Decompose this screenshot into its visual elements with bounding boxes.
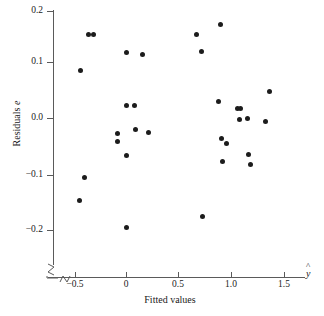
y-hat-letter: y (306, 268, 310, 279)
data-point (115, 131, 120, 136)
x-axis-line (48, 277, 305, 278)
data-point (245, 116, 250, 121)
data-point (219, 136, 224, 141)
y-tick-3 (47, 175, 53, 176)
data-point (78, 68, 83, 73)
x-tick-label-0: −0.5 (58, 279, 92, 289)
data-point (77, 198, 82, 203)
data-point (82, 175, 87, 180)
data-point (246, 152, 251, 157)
data-point (124, 225, 129, 230)
data-point (248, 162, 253, 167)
y-tick-4 (47, 230, 53, 231)
x-tick-label-3: 1.0 (214, 279, 248, 289)
y-tick-label-4: −0.2 (13, 224, 43, 234)
data-point (237, 117, 242, 122)
data-point (146, 130, 151, 135)
data-point (115, 139, 120, 144)
x-tick-3 (231, 272, 232, 277)
x-tick-label-1: 0 (109, 279, 143, 289)
y-tick-0 (47, 11, 53, 12)
data-point (124, 50, 129, 55)
x-tick-label-4: 1.5 (267, 279, 301, 289)
data-point (224, 141, 229, 146)
data-point (263, 119, 268, 124)
x-tick-4 (284, 272, 285, 277)
y-tick-label-1: 0.1 (13, 56, 43, 66)
residual-scatter-plot-figure: 0.2 0.1 0.0 −0.1 −0.2 −0.5 0 0.5 1.0 1.5… (0, 0, 324, 316)
data-point (200, 214, 205, 219)
data-point (124, 153, 129, 158)
data-point (216, 99, 221, 104)
y-tick-1 (47, 62, 53, 63)
y-axis-title-text: Residuals (11, 108, 22, 147)
y-axis-title-symbol: e (11, 101, 22, 105)
y-axis-line (53, 10, 54, 265)
data-point (194, 32, 199, 37)
data-point (218, 22, 223, 27)
x-tick-2 (178, 272, 179, 277)
data-point (140, 52, 145, 57)
x-axis-end-label-yhat: ^y (306, 264, 310, 279)
y-axis-title: Residuals e (11, 74, 22, 174)
plot-area: 0.2 0.1 0.0 −0.1 −0.2 −0.5 0 0.5 1.0 1.5 (0, 0, 324, 316)
y-tick-label-0: 0.2 (13, 5, 43, 15)
data-point (238, 106, 243, 111)
data-point (91, 32, 96, 37)
x-tick-label-2: 0.5 (161, 279, 195, 289)
data-point (199, 49, 204, 54)
x-tick-0 (75, 272, 76, 277)
data-point (267, 89, 272, 94)
x-axis-title: Fitted values (110, 294, 230, 305)
data-point (86, 32, 91, 37)
data-point (133, 127, 138, 132)
x-tick-1 (126, 272, 127, 277)
data-point (132, 103, 137, 108)
data-point (124, 103, 129, 108)
data-point (220, 159, 225, 164)
y-tick-2 (47, 118, 53, 119)
